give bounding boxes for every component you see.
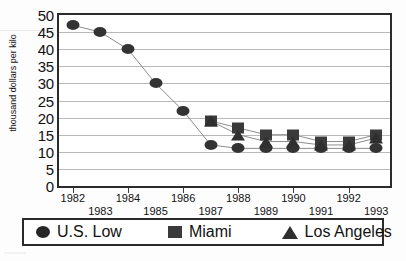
data-point-triangle (204, 116, 218, 127)
x-tick-label: 1993 (364, 205, 388, 217)
y-tick-label: 40 (38, 42, 54, 57)
data-point-circle (370, 143, 383, 153)
y-tick-label: 45 (38, 25, 54, 40)
data-point-triangle (369, 133, 383, 144)
x-tick-label: 1984 (116, 192, 140, 204)
legend-item-u-s-low[interactable]: U.S. Low (36, 223, 122, 241)
x-tickmark (238, 188, 239, 193)
legend-item-miami[interactable]: Miami (168, 223, 232, 241)
y-axis-ticks: 05101520253035404550 (18, 13, 54, 188)
x-tick-label: 1989 (254, 205, 278, 217)
triangle-marker-icon (282, 226, 298, 239)
x-tick-label: 1987 (198, 205, 222, 217)
y-axis-title: thousand dollars per kilo (8, 8, 18, 158)
data-point-triangle (259, 136, 273, 147)
data-point-triangle (314, 139, 328, 150)
chart-figure: thousand dollars per kilo 05101520253035… (0, 0, 406, 261)
data-point-triangle (286, 136, 300, 147)
x-tickmark (183, 188, 184, 193)
scan-artifact (4, 252, 26, 254)
x-tick-label: 1988 (226, 192, 250, 204)
y-tick-label: 5 (46, 161, 54, 176)
x-tick-label: 1983 (88, 205, 112, 217)
y-tick-label: 20 (38, 110, 54, 125)
legend-label: U.S. Low (57, 223, 122, 241)
data-point-triangle (342, 139, 356, 150)
legend-item-los-angeles[interactable]: Los Angeles (282, 223, 392, 241)
data-point-circle (232, 143, 245, 153)
x-tickmark (128, 188, 129, 193)
x-tick-label: 1986 (171, 192, 195, 204)
y-tick-label: 0 (46, 179, 54, 194)
y-tick-label: 35 (38, 59, 54, 74)
circle-marker-icon (36, 226, 50, 238)
data-point-circle (121, 44, 134, 54)
x-tick-label: 1990 (281, 192, 305, 204)
x-tickmark (349, 188, 350, 193)
x-axis-ticks: 1982198319841985198619871988198919901991… (57, 188, 392, 218)
y-tick-label: 10 (38, 144, 54, 159)
data-point-circle (149, 78, 162, 88)
legend-label: Miami (189, 223, 232, 241)
x-tick-label: 1985 (143, 205, 167, 217)
data-point-circle (204, 140, 217, 150)
x-tick-label: 1991 (309, 205, 333, 217)
square-marker-icon (168, 226, 182, 238)
x-tickmark (293, 188, 294, 193)
data-point-circle (94, 27, 107, 37)
data-point-circle (177, 106, 190, 116)
series-markers (59, 15, 390, 186)
y-tick-label: 25 (38, 93, 54, 108)
data-point-triangle (231, 129, 245, 140)
y-tick-label: 30 (38, 76, 54, 91)
legend-label: Los Angeles (305, 223, 392, 241)
plot-area (57, 13, 392, 188)
x-tick-label: 1982 (61, 192, 85, 204)
y-tick-label: 15 (38, 127, 54, 142)
x-tick-label: 1992 (336, 192, 360, 204)
data-point-circle (66, 20, 79, 30)
chart-legend: U.S. LowMiamiLos Angeles (22, 218, 384, 246)
x-tickmark (73, 188, 74, 193)
y-tick-label: 50 (38, 8, 54, 23)
